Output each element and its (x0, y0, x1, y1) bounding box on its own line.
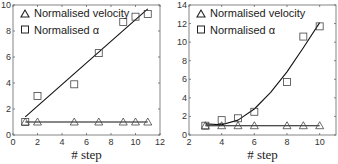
triangle-legend-icon (21, 10, 29, 17)
y-tick-label: 8 (182, 56, 187, 66)
legend-label-alpha: Normalised α (34, 24, 100, 36)
y-tick-label: 10 (1, 0, 11, 10)
y-tick-label: 0 (182, 130, 187, 140)
square-marker (120, 18, 127, 25)
y-tick-label: 8 (6, 26, 11, 36)
x-tick-label: 6 (252, 137, 257, 147)
y-tick-label: 0 (6, 130, 11, 140)
x-tick-label: 10 (315, 137, 325, 147)
charts-figure: 0246810120246810# stepNormalised velocit… (0, 0, 338, 164)
x-tick-label: 6 (84, 137, 89, 147)
x-tick-label: 2 (186, 137, 191, 147)
x-axis-label: # step (247, 147, 278, 162)
y-tick-label: 4 (182, 93, 187, 103)
x-tick-label: 12 (155, 137, 165, 147)
x-axis-label: # step (71, 147, 102, 162)
square-marker (218, 117, 225, 124)
x-tick-label: 0 (10, 137, 15, 147)
y-tick-label: 2 (182, 111, 187, 121)
chart-2: 24681002468101214# stepNormalised veloci… (177, 0, 336, 162)
y-tick-label: 10 (177, 37, 187, 47)
x-tick-label: 4 (59, 137, 64, 147)
x-tick-label: 2 (35, 137, 40, 147)
y-tick-label: 2 (6, 104, 11, 114)
square-marker (95, 50, 102, 57)
legend-label-alpha: Normalised α (210, 24, 276, 36)
square-marker (284, 79, 291, 86)
chart-1: 0246810120246810# stepNormalised velocit… (1, 0, 165, 162)
x-tick-label: 8 (108, 137, 113, 147)
legend-label-velocity: Normalised velocity (210, 7, 306, 19)
triangle-legend-icon (197, 10, 205, 17)
x-tick-label: 10 (130, 137, 140, 147)
square-marker (71, 81, 78, 88)
square-legend-icon (22, 26, 29, 33)
square-marker (34, 93, 41, 100)
y-tick-label: 6 (6, 52, 11, 62)
y-tick-label: 4 (6, 78, 11, 88)
y-tick-label: 14 (177, 0, 187, 10)
fit-curve (205, 23, 319, 125)
legend-label-velocity: Normalised velocity (34, 7, 130, 19)
legend: Normalised velocityNormalised α (197, 7, 306, 36)
y-tick-label: 12 (177, 19, 187, 29)
square-legend-icon (198, 26, 205, 33)
square-marker (300, 33, 307, 40)
legend: Normalised velocityNormalised α (21, 7, 130, 36)
x-tick-label: 4 (219, 137, 224, 147)
y-tick-label: 6 (182, 74, 187, 84)
x-tick-label: 8 (284, 137, 289, 147)
